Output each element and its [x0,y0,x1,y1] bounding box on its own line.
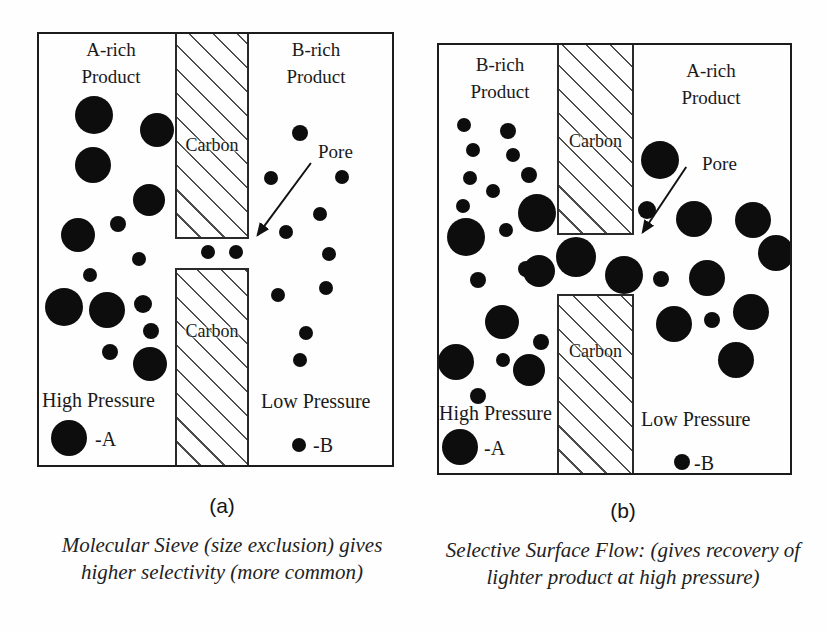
molecule-circle [500,123,516,139]
molecule-circle [506,148,520,162]
molecule-circle [457,118,471,132]
molecule-circle [486,184,500,198]
molecule-circle [134,295,152,313]
legend-molecule-a-icon [51,420,87,456]
caption-a-tag: (a) [32,494,412,518]
molecule-circle [83,268,97,282]
label-a-rich-product: A-rich Product [645,57,777,111]
label-pore: Pore [318,141,353,163]
molecule-circle [293,353,307,367]
label-high-pressure: High Pressure [439,402,552,425]
label-high-pressure: High Pressure [42,389,155,412]
molecule-circle [299,326,313,340]
molecule-circle [110,216,126,232]
molecule-circle [335,170,349,184]
molecule-circle [102,344,118,360]
legend-molecule-a-icon [442,429,478,465]
molecule-circle [271,288,285,302]
molecule-circle [521,167,537,183]
panel-b-selective-surface-flow: B-rich Product A-rich Product Carbon Car… [437,43,792,475]
molecule-circle [322,247,336,261]
label-a-rich-product: A-rich Product [43,36,179,90]
label-low-pressure: Low Pressure [261,390,370,413]
label-pore: Pore [702,153,737,175]
panel-a-molecular-sieve: A-rich Product B-rich Product Carbon Car… [37,32,394,467]
molecule-circle [456,199,470,213]
caption-b: (b) Selective Surface Flow: (gives recov… [433,499,813,591]
label-b-rich-product: B-rich Product [439,51,561,105]
molecule-circle [132,252,146,266]
molecule-circle [704,312,720,328]
label-carbon-top: Carbon [557,131,634,152]
label-low-pressure: Low Pressure [641,408,750,431]
molecule-circle [319,281,333,295]
caption-a: (a) Molecular Sieve (size exclusion) giv… [32,494,412,586]
legend-label-b: -B [313,434,333,457]
molecule-circle [143,323,159,339]
molecule-circle [201,245,215,259]
legend-label-a: -A [484,437,505,460]
molecule-circle [279,225,293,239]
legend-molecule-b-icon [292,438,306,452]
label-b-rich-product: B-rich Product [248,36,384,90]
legend-label-b: -B [694,452,714,475]
legend-molecule-b-icon [674,454,690,470]
molecule-circle [229,245,243,259]
molecule-circle [264,171,278,185]
molecule-circle [638,201,656,219]
molecule-circle [499,223,513,237]
label-carbon-top: Carbon [175,135,249,156]
molecule-circle [533,334,549,350]
caption-b-tag: (b) [433,499,813,523]
figure-membrane-separation: A-rich Product B-rich Product Carbon Car… [0,0,828,633]
legend-label-a: -A [95,428,116,451]
caption-a-text: Molecular Sieve (size exclusion) gives h… [32,532,412,586]
molecule-circle [518,261,534,277]
molecule-circle [653,271,669,287]
label-carbon-bottom: Carbon [557,341,634,362]
molecule-circle [496,353,510,367]
molecule-circle [463,171,477,185]
molecule-circle [470,272,486,288]
caption-b-text: Selective Surface Flow: (gives recovery … [433,537,813,591]
molecule-circle [292,125,308,141]
label-carbon-bottom: Carbon [175,321,249,342]
molecule-circle [313,207,327,221]
molecule-circle [466,143,480,157]
